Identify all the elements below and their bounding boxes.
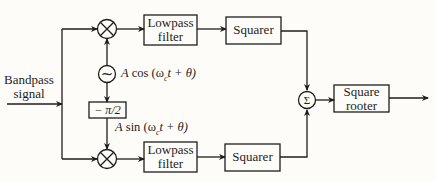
top-squarer-to-sum-line	[281, 31, 307, 90]
cos-func: cos	[132, 66, 149, 80]
rooter-line1: Square	[334, 85, 389, 99]
shifted-sin-label: A sin (ωct + θ)	[115, 120, 188, 137]
bottom-mixer	[98, 150, 117, 169]
rooter-line2: rooter	[334, 99, 389, 113]
top-mixer	[98, 20, 117, 39]
input-label: Bandpass signal	[4, 73, 54, 101]
top-lowpass-line1: Lowpass	[144, 16, 197, 30]
phase-shift-label: − π/2	[89, 103, 126, 117]
sigma-icon: Σ	[299, 92, 315, 108]
input-label-line1: Bandpass	[4, 73, 54, 87]
sin-func: sin	[126, 120, 141, 134]
bottom-lowpass-filter-label: Lowpass filter	[144, 143, 197, 171]
cos-amplitude: A	[121, 66, 129, 80]
top-lowpass-filter-label: Lowpass filter	[144, 16, 197, 44]
sin-amplitude: A	[115, 120, 123, 134]
oscillator-cos-label: A cos (ωct + θ)	[121, 66, 196, 83]
cos-arg: (ω	[152, 66, 164, 80]
bottom-squarer-label: Squarer	[225, 150, 280, 164]
square-rooter-label: Square rooter	[334, 85, 389, 113]
cos-rest: t + θ)	[168, 66, 196, 80]
sine-wave-icon: ~	[99, 65, 115, 83]
sin-arg: (ω	[143, 120, 155, 134]
input-label-line2: signal	[4, 87, 54, 101]
top-lowpass-line2: filter	[144, 30, 197, 44]
bottom-lowpass-line2: filter	[144, 157, 197, 171]
sin-rest: t + θ)	[159, 120, 187, 134]
top-squarer-label: Squarer	[226, 23, 281, 37]
bottom-squarer-to-sum-line	[280, 110, 307, 157]
bottom-lowpass-line1: Lowpass	[144, 143, 197, 157]
